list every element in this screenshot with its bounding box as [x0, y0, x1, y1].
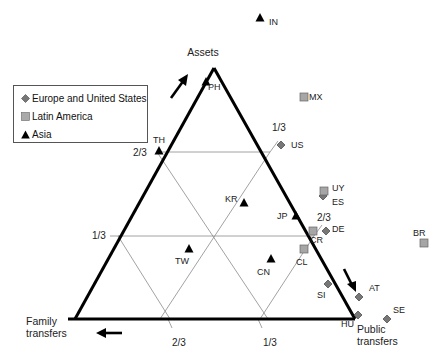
triangle-marker — [292, 211, 301, 220]
public-transfers-label-2: transfers — [357, 335, 398, 347]
point-label: HU — [341, 319, 354, 329]
triangle-marker — [185, 244, 194, 253]
tick-left-2-3: 2/3 — [133, 147, 147, 158]
legend-label: Asia — [32, 129, 51, 140]
legend-item-latin-america: Latin America — [21, 107, 147, 125]
point-label: AT — [369, 283, 380, 293]
data-points: USESDESIATHUSEMXUYCRCLBRINPHTHKRJPTWCN — [153, 13, 428, 329]
triangle-marker — [256, 13, 265, 22]
diamond-marker — [355, 293, 363, 301]
point-label: TW — [175, 256, 189, 266]
family-transfers-label-2: transfers — [26, 327, 67, 339]
tick-bottom-2-3: 2/3 — [172, 337, 186, 348]
point-label: MX — [309, 92, 323, 102]
diamond-icon — [21, 94, 30, 103]
family-transfers-label: Family — [26, 315, 58, 327]
ternary-chart: Assets Family transfers Public transfers… — [0, 0, 438, 358]
point-label: US — [291, 140, 304, 150]
legend: Europe and United States Latin America A… — [13, 85, 148, 143]
point-label: ES — [332, 197, 344, 207]
square-icon — [21, 112, 30, 121]
square-marker — [420, 239, 428, 247]
square-marker — [309, 227, 317, 235]
point-label: SI — [317, 290, 326, 300]
point-label: TH — [153, 135, 165, 145]
triangle-marker — [155, 146, 164, 155]
point-label: BR — [413, 228, 426, 238]
point-label: CR — [310, 235, 323, 245]
point-label: DE — [332, 224, 345, 234]
tick-bottom-1-3: 1/3 — [263, 337, 277, 348]
diamond-marker — [277, 141, 285, 149]
public-transfers-label: Public — [357, 323, 386, 335]
square-marker — [300, 245, 308, 253]
tick-right-1-3: 1/3 — [272, 122, 286, 133]
point-label: UY — [332, 183, 345, 193]
triangle-marker — [267, 254, 276, 263]
triangle-marker — [240, 198, 249, 207]
legend-item-europe: Europe and United States — [21, 89, 147, 107]
tick-left-1-3: 1/3 — [92, 230, 106, 241]
square-marker — [300, 93, 308, 101]
diamond-marker — [322, 227, 330, 235]
tick-labels: 2/3 1/3 1/3 2/3 2/3 1/3 — [92, 122, 331, 348]
tick-right-2-3: 2/3 — [317, 212, 331, 223]
point-label: CN — [257, 267, 270, 277]
diamond-marker — [383, 315, 391, 323]
legend-item-asia: Asia — [21, 125, 147, 143]
square-marker — [320, 187, 328, 195]
point-label: PH — [208, 82, 221, 92]
point-label: IN — [269, 17, 278, 27]
point-label: KR — [225, 194, 238, 204]
diamond-marker — [324, 280, 332, 288]
point-label: JP — [277, 211, 288, 221]
legend-label: Latin America — [32, 111, 93, 122]
point-label: SE — [393, 305, 405, 315]
grid-lines — [110, 141, 322, 328]
point-label: CL — [296, 257, 308, 267]
assets-label: Assets — [187, 46, 219, 58]
triangle-icon — [21, 130, 30, 139]
legend-label: Europe and United States — [32, 93, 147, 104]
